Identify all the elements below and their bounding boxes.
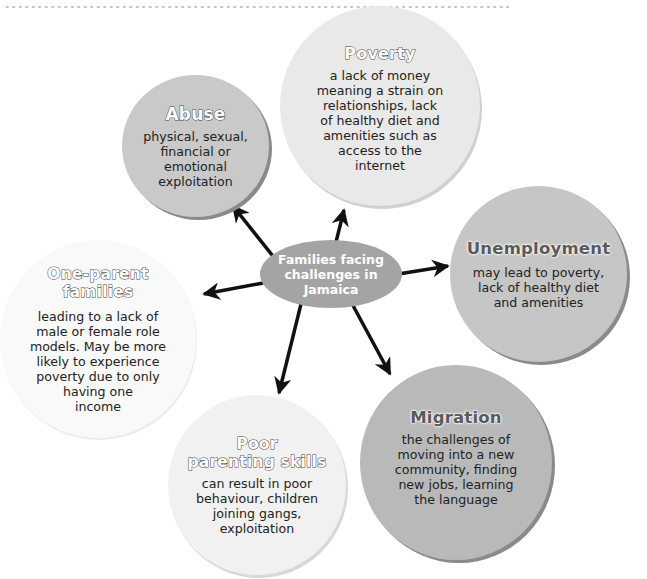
node-unemployment: Unemployment may lead to poverty, lack o…	[450, 186, 627, 362]
node-title: Poverty	[344, 44, 415, 63]
node-title: Poor parenting skills	[188, 435, 327, 471]
node-title: One-parent families	[47, 265, 148, 301]
node-title: Migration	[410, 408, 502, 427]
arrow-to-poor-parenting	[279, 300, 302, 393]
node-description: may lead to poverty, lack of healthy die…	[473, 265, 605, 310]
center-line: Jamaica	[278, 282, 384, 297]
center-line: challenges in	[278, 267, 384, 282]
node-description: can result in poor behaviour, children j…	[196, 476, 318, 536]
node-poor-parenting-skills: Poor parenting skills can result in poor…	[168, 395, 346, 575]
arrow-to-abuse	[233, 206, 276, 260]
node-migration: Migration the challenges of moving into …	[360, 365, 552, 560]
node-title: Abuse	[165, 104, 225, 124]
node-one-parent-families: One-parent families leading to a lack of…	[0, 240, 196, 438]
center-topic: Families facing challenges in Jamaica	[260, 240, 402, 308]
arrow-to-one-parent	[204, 283, 263, 294]
node-description: leading to a lack of male or female role…	[30, 309, 166, 414]
node-title: Unemployment	[467, 239, 611, 258]
center-line: Families facing	[278, 252, 384, 267]
arrow-to-migration	[350, 300, 390, 374]
node-abuse: Abuse physical, sexual, financial or emo…	[122, 75, 269, 217]
node-poverty: Poverty a lack of money meaning a strain…	[280, 6, 480, 206]
node-description: physical, sexual, financial or emotional…	[143, 129, 247, 189]
node-description: a lack of money meaning a strain on rela…	[317, 68, 443, 173]
node-description: the challenges of moving into a new comm…	[395, 432, 517, 507]
